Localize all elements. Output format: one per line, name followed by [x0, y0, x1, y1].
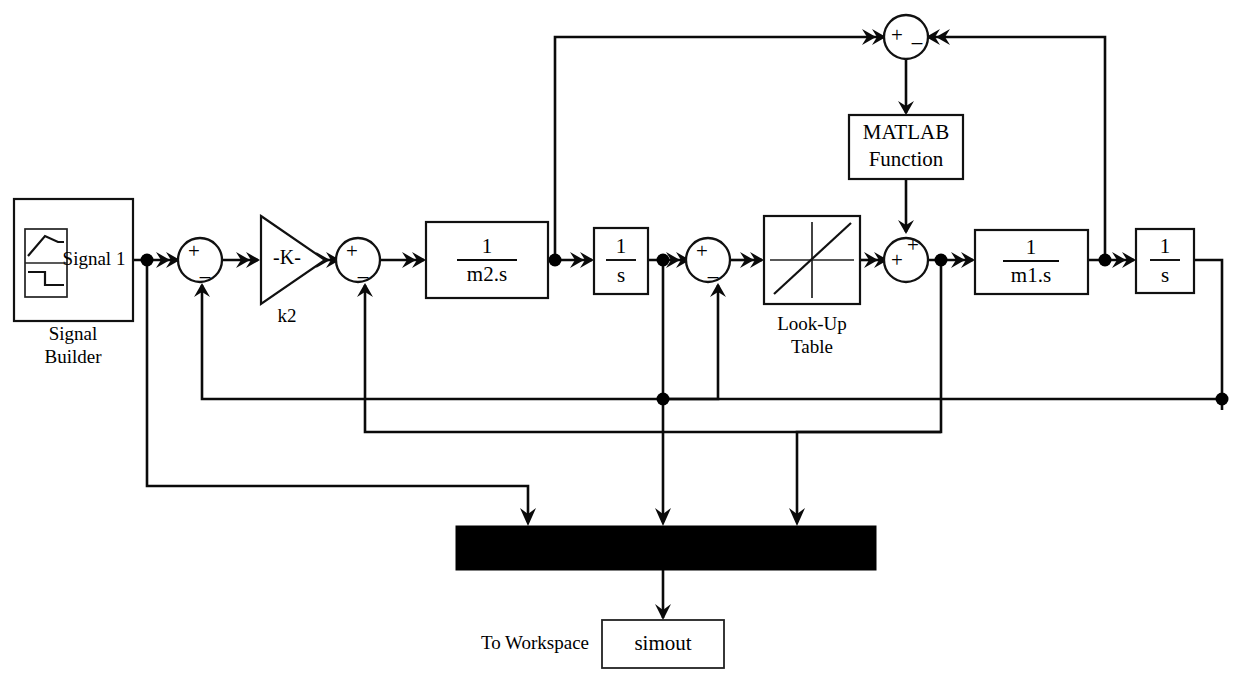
integrator-1-numerator: 1: [616, 234, 627, 258]
tf-m1-denominator: m1.s: [1011, 263, 1051, 287]
gain-block[interactable]: -K- k2: [261, 216, 325, 326]
gain-label: k2: [278, 305, 297, 326]
wire-signal-to-mux: [147, 260, 528, 522]
signal-builder-label-line2: Builder: [45, 346, 103, 367]
junction-dot-int1-out: [657, 254, 670, 267]
matlab-function-label-line2: Function: [869, 147, 944, 171]
junction-dot-bus-right: [1216, 393, 1229, 406]
integrator-2-denominator: s: [1161, 263, 1169, 287]
sum3-sign-minus: _: [707, 256, 719, 280]
transfer-function-m2-block[interactable]: 1 m2.s: [426, 222, 548, 298]
junction-dot-signal: [141, 254, 154, 267]
sum4-sign-plus-left: +: [891, 248, 903, 272]
sum-block-top[interactable]: + _: [884, 15, 928, 59]
integrator-1-block[interactable]: 1 s: [594, 228, 648, 294]
signal-builder-label-line1: Signal: [49, 323, 98, 344]
to-workspace-label: To Workspace: [481, 632, 589, 653]
lookup-table-label-line1: Look-Up: [777, 313, 847, 334]
sum-block-4[interactable]: + +: [884, 233, 928, 282]
sum2-sign-plus: +: [346, 239, 358, 263]
mux-body[interactable]: [456, 526, 876, 570]
mux-block[interactable]: [456, 526, 876, 570]
junction-dot-sum4-out: [935, 254, 948, 267]
sum-block-3[interactable]: + _: [686, 238, 730, 282]
gain-value: -K-: [273, 246, 301, 268]
lookup-table-block[interactable]: Look-Up Table: [764, 216, 860, 357]
wire-int2-to-bus: [1194, 260, 1222, 399]
integrator-2-numerator: 1: [1160, 234, 1171, 258]
sum2-sign-minus: _: [357, 256, 369, 280]
sum-block-2[interactable]: + _: [336, 238, 380, 282]
signal-builder-block[interactable]: Signal 1 Signal Builder: [14, 199, 133, 367]
sum-block-1[interactable]: + _: [178, 238, 222, 282]
tf-m2-numerator: 1: [482, 234, 493, 258]
matlab-function-label-line1: MATLAB: [863, 120, 949, 144]
to-workspace-variable: simout: [634, 631, 691, 655]
sum1-sign-minus: _: [199, 256, 211, 280]
wire-feedback-bus-upper: [202, 285, 1222, 399]
junction-dot-tfm2-out: [549, 254, 562, 267]
junction-dot-tfm1-out: [1099, 254, 1112, 267]
sum1-sign-plus: +: [188, 239, 200, 263]
sum4-sign-plus-top: +: [907, 233, 919, 257]
matlab-function-block[interactable]: MATLAB Function: [849, 115, 963, 179]
integrator-1-denominator: s: [617, 263, 625, 287]
tf-m1-numerator: 1: [1026, 235, 1037, 259]
junction-dot-bus-mid: [657, 393, 670, 406]
integrator-2-block[interactable]: 1 s: [1136, 229, 1194, 293]
transfer-function-m1-block[interactable]: 1 m1.s: [975, 230, 1088, 294]
wire-feedback-to-sum3: [663, 285, 718, 399]
lookup-table-label-line2: Table: [791, 336, 833, 357]
to-workspace-block[interactable]: simout To Workspace: [481, 620, 724, 668]
sum-top-sign-minus: _: [911, 22, 923, 46]
sum3-sign-plus: +: [696, 239, 708, 263]
block-diagram-canvas: Signal 1 Signal Builder + _ -K- k2 + _ 1: [0, 0, 1237, 678]
tf-m2-denominator: m2.s: [467, 262, 507, 286]
signal-builder-port-label: Signal 1: [63, 248, 126, 269]
wire-bus-to-mux3: [797, 432, 941, 522]
sum-top-sign-plus: +: [891, 23, 903, 47]
